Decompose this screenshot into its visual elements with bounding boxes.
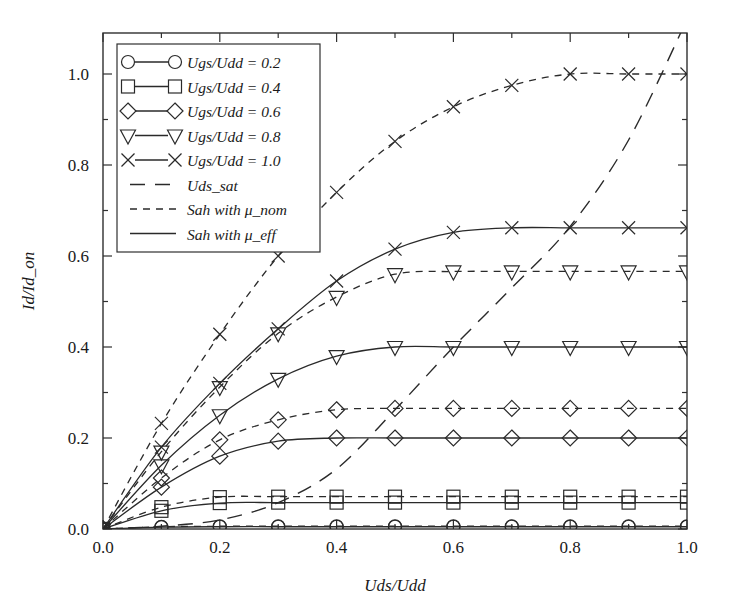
series-marker-ugs_08	[563, 266, 578, 280]
series-marker-ugs_08	[388, 342, 403, 356]
x-tick-label: 0.6	[443, 538, 464, 557]
y-tick-label: 0.6	[68, 247, 89, 266]
legend-label: Ugs/Udd = 1.0	[187, 152, 281, 169]
x-tick-label: 0.4	[326, 538, 348, 557]
legend-label: Ugs/Udd = 0.2	[187, 54, 281, 71]
transistor-output-characteristics-chart: 0.00.20.40.60.81.00.00.20.40.60.81.0Uds/…	[0, 0, 734, 610]
series-marker-ugs_08	[388, 269, 403, 283]
x-axis-title: Uds/Udd	[364, 576, 426, 595]
series-marker-ugs_08	[621, 342, 636, 356]
legend-label: Ugs/Udd = 0.4	[187, 79, 281, 96]
y-axis-title: Id/Id_on	[19, 252, 38, 312]
series-marker-ugs_08	[504, 342, 519, 356]
series-marker-ugs_08	[446, 266, 461, 280]
legend-box	[117, 44, 320, 252]
y-tick-label: 0.2	[68, 429, 89, 448]
series-marker-ugs_08	[504, 266, 519, 280]
series-line-ugs_06	[103, 408, 687, 529]
x-tick-label: 0.2	[209, 538, 230, 557]
x-tick-label: 0.0	[92, 538, 113, 557]
y-tick-label: 1.0	[68, 65, 89, 84]
series-line-ugs_06	[103, 438, 687, 529]
legend-label: Uds_sat	[187, 177, 239, 194]
series-marker-ugs_08	[329, 291, 344, 305]
y-tick-label: 0.0	[68, 520, 89, 539]
series-marker-ugs_08	[621, 266, 636, 280]
series-marker-ugs_08	[563, 342, 578, 356]
legend-label: Sah with μ_eff	[187, 226, 278, 243]
series-marker-ugs_08	[154, 460, 169, 474]
legend-label: Sah with μ_nom	[187, 201, 287, 218]
y-tick-label: 0.4	[68, 338, 90, 357]
x-tick-label: 0.8	[560, 538, 581, 557]
x-tick-label: 1.0	[676, 538, 697, 557]
legend-label: Ugs/Udd = 0.8	[187, 128, 281, 145]
figure-container: 0.00.20.40.60.81.00.00.20.40.60.81.0Uds/…	[0, 0, 734, 610]
y-tick-label: 0.8	[68, 156, 89, 175]
legend-label: Ugs/Udd = 0.6	[187, 103, 281, 120]
legend-layer: Ugs/Udd = 0.2Ugs/Udd = 0.4Ugs/Udd = 0.6U…	[117, 44, 320, 252]
series-marker-ugs_08	[271, 373, 286, 387]
